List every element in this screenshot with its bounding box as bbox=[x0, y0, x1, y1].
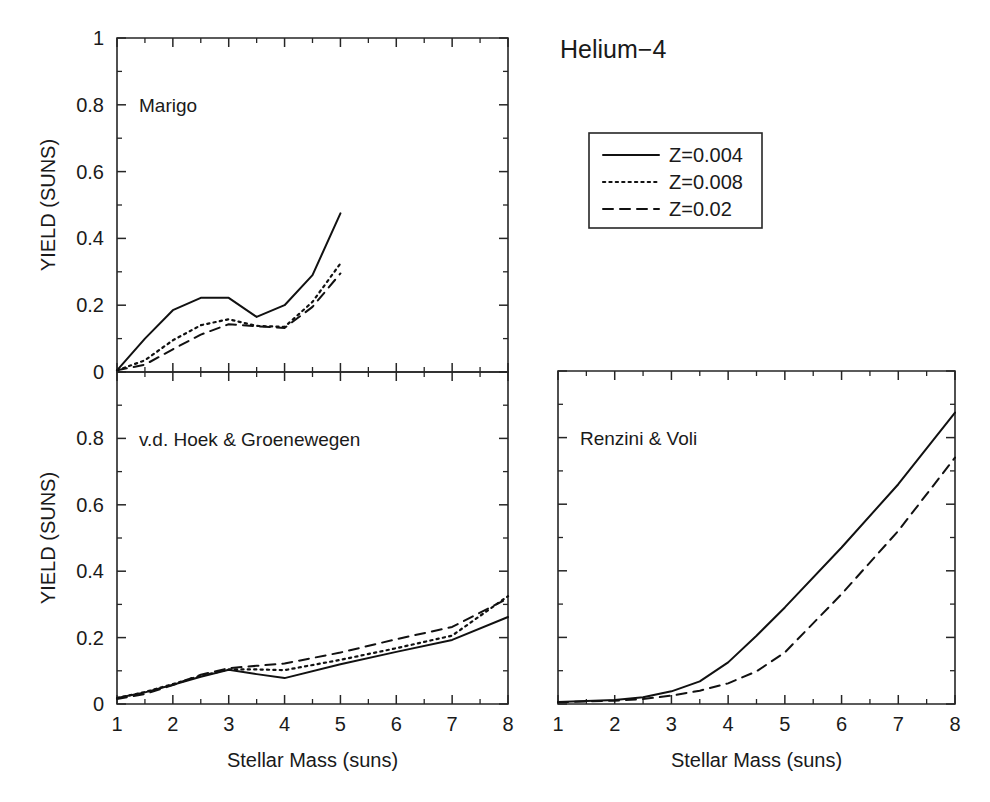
y-tick-label-top-left-2: 0.4 bbox=[76, 227, 104, 249]
y-tick-label-top-left-1: 0.2 bbox=[76, 294, 104, 316]
series-line-bottom-left-2 bbox=[117, 598, 508, 699]
plot-frame-bottom-left bbox=[117, 372, 508, 704]
x-tick-label-bottom-right-0: 1 bbox=[552, 713, 563, 735]
panel-title-top-left: Marigo bbox=[139, 95, 197, 116]
panel-bottom-right: Renzini & Voli12345678Stellar Mass (suns… bbox=[552, 371, 960, 771]
x-tick-label-bottom-right-5: 6 bbox=[836, 713, 847, 735]
series-line-bottom-right-0 bbox=[558, 413, 955, 702]
y-tick-label-top-left-0: 0 bbox=[93, 361, 104, 383]
y-tick-label-bottom-left-2: 0.4 bbox=[76, 560, 104, 582]
figure-title: Helium−4 bbox=[560, 35, 666, 63]
series-line-bottom-left-1 bbox=[117, 596, 508, 698]
series-line-bottom-left-0 bbox=[117, 617, 508, 698]
series-line-top-left-0 bbox=[117, 213, 340, 370]
x-tick-label-bottom-left-5: 6 bbox=[391, 713, 402, 735]
panel-top-left: Marigo00.20.40.60.81YIELD (SUNS) bbox=[37, 27, 508, 383]
x-tick-label-bottom-left-7: 8 bbox=[502, 713, 513, 735]
panel-bottom-left: v.d. Hoek & Groenewegen00.20.40.60.8YIEL… bbox=[37, 372, 514, 771]
x-tick-label-bottom-left-3: 4 bbox=[279, 713, 290, 735]
plot-frame-top-left bbox=[117, 38, 508, 372]
y-tick-label-top-left-4: 0.8 bbox=[76, 94, 104, 116]
x-tick-label-bottom-right-2: 3 bbox=[666, 713, 677, 735]
x-tick-label-bottom-left-2: 3 bbox=[223, 713, 234, 735]
figure-root: Marigo00.20.40.60.81YIELD (SUNS)v.d. Hoe… bbox=[0, 0, 990, 802]
x-tick-label-bottom-left-0: 1 bbox=[111, 713, 122, 735]
panel-title-bottom-left: v.d. Hoek & Groenewegen bbox=[139, 429, 360, 450]
x-axis-title-bottom-left: Stellar Mass (suns) bbox=[227, 749, 398, 771]
y-tick-label-bottom-left-0: 0 bbox=[93, 693, 104, 715]
x-tick-label-bottom-right-1: 2 bbox=[609, 713, 620, 735]
x-axis-title-bottom-right: Stellar Mass (suns) bbox=[671, 749, 842, 771]
y-tick-label-bottom-left-4: 0.8 bbox=[76, 427, 104, 449]
y-tick-label-top-left-3: 0.6 bbox=[76, 161, 104, 183]
plot-frame-bottom-right bbox=[558, 371, 955, 704]
x-tick-label-bottom-right-4: 5 bbox=[779, 713, 790, 735]
figure-title-group: Helium−4 bbox=[560, 35, 666, 63]
series-line-top-left-1 bbox=[117, 263, 340, 370]
series-line-top-left-2 bbox=[117, 273, 340, 370]
x-tick-label-bottom-right-3: 4 bbox=[723, 713, 734, 735]
x-tick-label-bottom-right-7: 8 bbox=[949, 713, 960, 735]
y-tick-label-bottom-left-1: 0.2 bbox=[76, 627, 104, 649]
x-tick-label-bottom-left-6: 7 bbox=[447, 713, 458, 735]
x-tick-label-bottom-left-4: 5 bbox=[335, 713, 346, 735]
legend-label-1: Z=0.008 bbox=[669, 171, 743, 193]
panel-title-bottom-right: Renzini & Voli bbox=[580, 428, 697, 449]
legend-label-0: Z=0.004 bbox=[669, 144, 743, 166]
y-axis-title-bottom-left: YIELD (SUNS) bbox=[37, 472, 59, 604]
y-axis-title-top-left: YIELD (SUNS) bbox=[37, 139, 59, 271]
legend-label-2: Z=0.02 bbox=[669, 198, 732, 220]
scientific-figure: Marigo00.20.40.60.81YIELD (SUNS)v.d. Hoe… bbox=[0, 0, 990, 802]
y-tick-label-top-left-5: 1 bbox=[93, 27, 104, 49]
y-tick-label-bottom-left-3: 0.6 bbox=[76, 494, 104, 516]
x-tick-label-bottom-left-1: 2 bbox=[167, 713, 178, 735]
series-line-bottom-right-1 bbox=[558, 458, 955, 703]
legend: Z=0.004Z=0.008Z=0.02 bbox=[589, 133, 762, 228]
x-tick-label-bottom-right-6: 7 bbox=[893, 713, 904, 735]
